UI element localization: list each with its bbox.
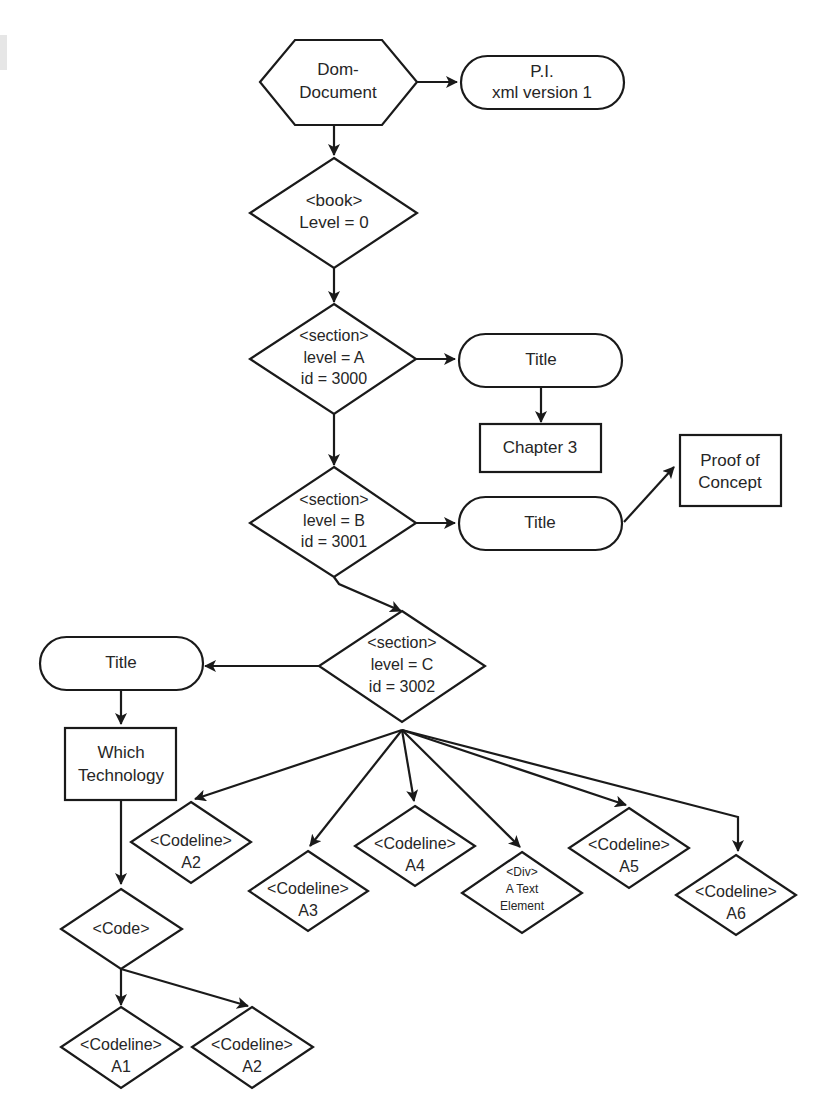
node-label-line: Document bbox=[299, 83, 377, 102]
node-chapter3: Chapter 3 bbox=[480, 424, 601, 472]
node-which-technology: Which Technology bbox=[65, 728, 176, 800]
node-label-line: Title bbox=[105, 653, 137, 672]
node-label-line: Concept bbox=[698, 473, 762, 492]
node-pi: P.I. xml version 1 bbox=[461, 56, 624, 109]
node-label-line: <Codeline> bbox=[374, 835, 456, 852]
node-label-line: <Codeline> bbox=[695, 883, 777, 900]
node-div-text-element: <Div> A Text Element bbox=[462, 852, 582, 933]
edge-title-b-to-proof bbox=[624, 467, 674, 522]
rect-shape bbox=[680, 435, 781, 506]
dom-tree-diagram: Dom- Document P.I. xml version 1 <book> … bbox=[0, 0, 837, 1120]
edge-section-c-to-a2 bbox=[195, 730, 402, 799]
node-label-line: A Text bbox=[506, 882, 539, 896]
node-label-line: <Codeline> bbox=[588, 836, 670, 853]
node-label-line: level = B bbox=[303, 512, 365, 529]
scan-artifact bbox=[0, 35, 7, 70]
node-label-line: Level = 0 bbox=[299, 213, 368, 232]
node-code: <Code> bbox=[61, 889, 182, 969]
rect-shape bbox=[65, 728, 176, 800]
edge-section-b-to-section-c bbox=[334, 577, 401, 611]
node-label-line: A3 bbox=[298, 902, 318, 919]
edge-section-c-to-a5 bbox=[402, 730, 626, 805]
node-codeline-a1: <Codeline> A1 bbox=[61, 1007, 182, 1088]
node-label-line: <section> bbox=[299, 491, 368, 508]
node-label-line: Which bbox=[97, 743, 144, 762]
node-label-line: A5 bbox=[619, 858, 639, 875]
node-proof-of-concept: Proof of Concept bbox=[680, 435, 781, 506]
edge-code-to-a2-code bbox=[121, 969, 248, 1006]
node-label-line: Title bbox=[524, 513, 556, 532]
node-label-line: Dom- bbox=[317, 60, 359, 79]
node-label-line: <section> bbox=[299, 327, 368, 344]
node-title-c: Title bbox=[40, 637, 203, 690]
node-label-line: Title bbox=[525, 350, 557, 369]
node-label-line: A2 bbox=[181, 854, 201, 871]
node-label-line: Technology bbox=[78, 766, 165, 785]
node-label-line: id = 3000 bbox=[301, 370, 367, 387]
node-codeline-a2: <Codeline> A2 bbox=[131, 802, 251, 883]
node-label-line: <Code> bbox=[93, 920, 150, 937]
node-label-line: Element bbox=[500, 899, 545, 913]
node-section-c: <section> level = C id = 3002 bbox=[319, 611, 485, 722]
node-title-a: Title bbox=[459, 334, 622, 387]
node-dom-document: Dom- Document bbox=[260, 40, 417, 125]
node-label-line: A2 bbox=[242, 1058, 262, 1075]
node-section-b: <section> level = B id = 3001 bbox=[250, 467, 416, 577]
node-label-line: A6 bbox=[726, 905, 746, 922]
node-label-line: <Div> bbox=[506, 865, 537, 879]
node-label-line: A4 bbox=[405, 857, 425, 874]
node-label-line: <Codeline> bbox=[80, 1036, 162, 1053]
node-label-line: <book> bbox=[306, 191, 363, 210]
node-label-line: id = 3001 bbox=[301, 533, 367, 550]
node-label-line: Proof of bbox=[700, 451, 760, 470]
node-title-b: Title bbox=[459, 497, 622, 550]
node-label-line: <section> bbox=[367, 634, 436, 651]
node-label-line: xml version 1 bbox=[492, 83, 592, 102]
node-section-a: <section> level = A id = 3000 bbox=[250, 304, 416, 414]
node-label-line: level = A bbox=[304, 349, 365, 366]
node-codeline-a2-code: <Codeline> A2 bbox=[192, 1007, 313, 1088]
node-codeline-a3: <Codeline> A3 bbox=[249, 851, 368, 931]
node-book: <book> Level = 0 bbox=[250, 158, 417, 268]
node-label-line: <Codeline> bbox=[267, 880, 349, 897]
node-label-line: level = C bbox=[371, 656, 434, 673]
node-codeline-a4: <Codeline> A4 bbox=[355, 806, 475, 886]
node-label-line: P.I. bbox=[530, 62, 553, 81]
node-codeline-a6: <Codeline> A6 bbox=[676, 855, 796, 935]
node-codeline-a5: <Codeline> A5 bbox=[569, 808, 689, 888]
node-label-line: id = 3002 bbox=[369, 678, 435, 695]
node-label-line: Chapter 3 bbox=[503, 438, 578, 457]
node-label-line: A1 bbox=[111, 1058, 131, 1075]
node-label-line: <Codeline> bbox=[211, 1036, 293, 1053]
node-label-line: <Codeline> bbox=[150, 832, 232, 849]
